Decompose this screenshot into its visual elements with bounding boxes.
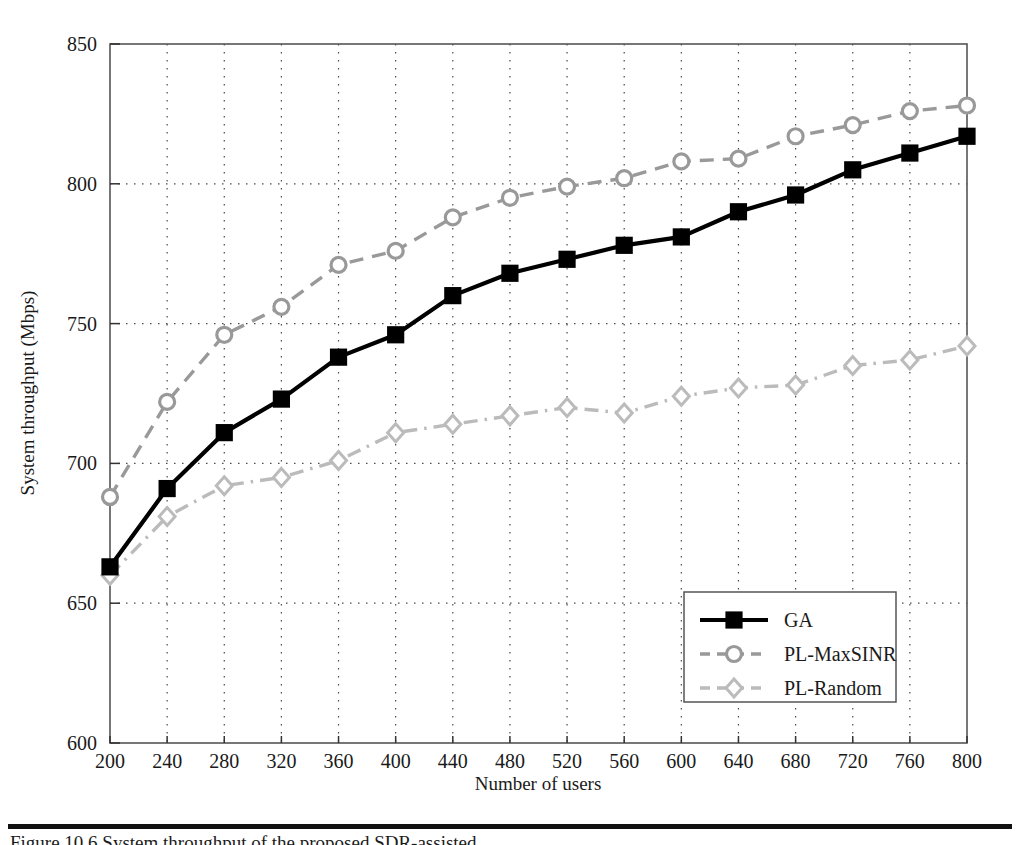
- figure-panel: 2002402803203604004404805205606006406807…: [0, 0, 1020, 845]
- data-point-marker: [960, 129, 974, 143]
- data-point-marker: [727, 613, 741, 627]
- data-point-marker: [332, 350, 346, 364]
- x-tick-label: 440: [438, 750, 468, 772]
- x-axis-tick-labels: 2002402803203604004404805205606006406807…: [95, 750, 982, 772]
- data-point-marker: [731, 151, 746, 166]
- data-point-marker: [789, 188, 803, 202]
- data-point-marker: [502, 190, 517, 205]
- y-axis-title: System throughput (Mbps): [17, 291, 39, 496]
- data-point-marker: [960, 98, 975, 113]
- x-tick-label: 240: [152, 750, 182, 772]
- legend-item-pl-maxsinr[interactable]: PL-MaxSINR: [700, 643, 897, 665]
- data-point-marker: [160, 394, 175, 409]
- data-point-marker: [674, 154, 689, 169]
- x-tick-label: 360: [324, 750, 354, 772]
- data-point-marker: [389, 328, 403, 342]
- y-tick-label: 800: [67, 173, 97, 195]
- caption-divider-rule: [8, 824, 1012, 829]
- x-tick-label: 320: [266, 750, 296, 772]
- data-point-marker: [103, 489, 118, 504]
- x-tick-label: 760: [895, 750, 925, 772]
- data-point-marker: [331, 257, 346, 272]
- x-tick-label: 400: [381, 750, 411, 772]
- x-axis-title: Number of users: [475, 773, 602, 794]
- x-tick-label: 720: [838, 750, 868, 772]
- data-point-marker: [674, 230, 688, 244]
- data-point-marker: [903, 146, 917, 160]
- data-point-marker: [560, 179, 575, 194]
- y-tick-label: 850: [67, 33, 97, 55]
- y-tick-label: 650: [67, 592, 97, 614]
- y-tick-label: 700: [67, 452, 97, 474]
- y-tick-label: 750: [67, 313, 97, 335]
- throughput-line-chart: 2002402803203604004404805205606006406807…: [0, 0, 1020, 812]
- data-point-marker: [617, 171, 632, 186]
- data-point-marker: [731, 205, 745, 219]
- data-point-marker: [503, 266, 517, 280]
- data-point-marker: [617, 238, 631, 252]
- data-point-marker: [274, 299, 289, 314]
- data-point-marker: [445, 210, 460, 225]
- x-tick-label: 600: [666, 750, 696, 772]
- x-tick-label: 480: [495, 750, 525, 772]
- y-tick-label: 600: [67, 732, 97, 754]
- data-point-marker: [217, 426, 231, 440]
- data-point-marker: [217, 327, 232, 342]
- x-tick-label: 520: [552, 750, 582, 772]
- x-tick-label: 680: [781, 750, 811, 772]
- legend-item-label: PL-Random: [784, 677, 882, 699]
- legend-item-label: PL-MaxSINR: [784, 643, 897, 665]
- data-point-marker: [388, 243, 403, 258]
- data-point-marker: [846, 163, 860, 177]
- y-axis-tick-labels: 600650700750800850: [67, 33, 97, 754]
- data-point-marker: [103, 560, 117, 574]
- chart-legend: GAPL-MaxSINRPL-Random: [684, 592, 897, 702]
- x-tick-label: 800: [952, 750, 982, 772]
- data-point-marker: [274, 392, 288, 406]
- figure-caption: Figure 10.6 System throughput of the pro…: [10, 833, 1010, 845]
- data-point-marker: [446, 289, 460, 303]
- data-point-marker: [727, 647, 742, 662]
- x-tick-label: 640: [723, 750, 753, 772]
- legend-item-label: GA: [784, 609, 813, 631]
- data-point-marker: [788, 129, 803, 144]
- data-point-marker: [902, 104, 917, 119]
- x-tick-label: 280: [209, 750, 239, 772]
- data-point-marker: [845, 118, 860, 133]
- data-point-marker: [160, 482, 174, 496]
- data-point-marker: [560, 252, 574, 266]
- x-tick-label: 560: [609, 750, 639, 772]
- x-tick-label: 200: [95, 750, 125, 772]
